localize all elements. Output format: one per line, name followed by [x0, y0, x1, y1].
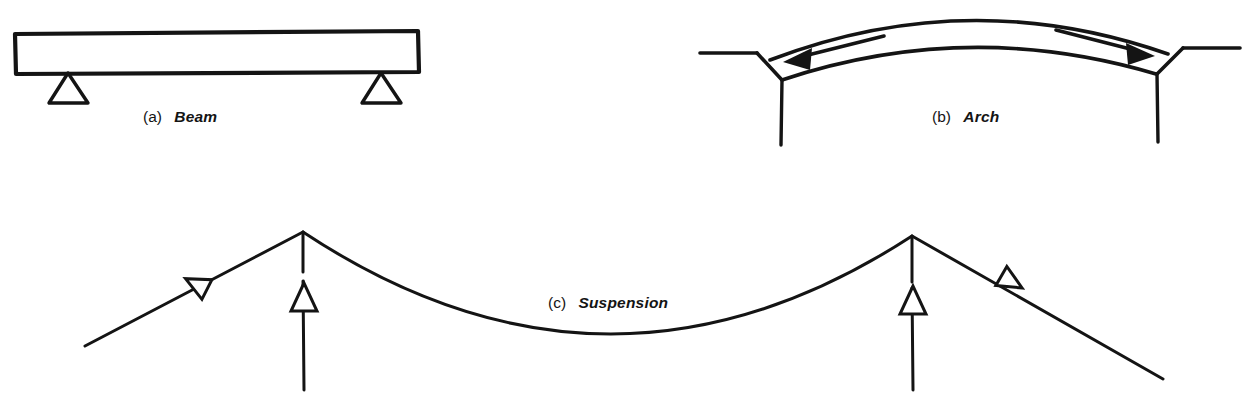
beam-deck: [15, 31, 419, 74]
arch-caption: (b) Arch: [932, 108, 999, 125]
arch-caption-label: Arch: [962, 108, 999, 125]
suspension-right-tower-load-arrow-icon: [900, 286, 926, 314]
beam-right-support-icon: [362, 73, 401, 103]
suspension-main-cable: [303, 232, 912, 334]
arch-right-pier: [1157, 74, 1158, 142]
arch-diagram: (b) Arch: [700, 20, 1240, 145]
beam-left-support-icon: [49, 73, 88, 103]
suspension-left-tower-load-arrow-icon: [291, 283, 317, 311]
suspension-caption-tag: (c): [548, 294, 566, 311]
arch-left-pier: [781, 80, 782, 145]
suspension-caption-label: Suspension: [578, 294, 668, 311]
arch-extrados: [770, 20, 1168, 60]
beam-caption-label: Beam: [174, 108, 217, 125]
suspension-diagram: (c) Suspension: [85, 232, 1163, 390]
beam-caption: (a) Beam: [143, 108, 217, 125]
beam-diagram: (a) Beam: [15, 31, 419, 125]
bridge-types-figure: (a) Beam (b) Arch: [0, 0, 1252, 399]
suspension-caption: (c) Suspension: [548, 294, 668, 311]
arch-intrados: [782, 47, 1156, 80]
arch-caption-tag: (b): [932, 108, 951, 125]
beam-caption-tag: (a): [143, 108, 162, 125]
suspension-right-backstay: [912, 236, 1163, 379]
